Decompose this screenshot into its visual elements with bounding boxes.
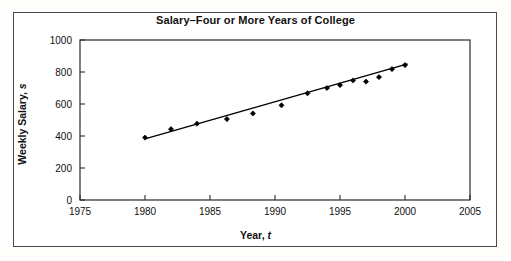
x-tick-label-2005: 2005 (459, 206, 482, 217)
y-tick-label-800: 800 (55, 67, 72, 78)
axes-group (80, 40, 470, 200)
data-point (363, 79, 368, 84)
x-tick-label-1995: 1995 (329, 206, 352, 217)
data-point (402, 63, 407, 68)
y-axis-ticks (80, 40, 85, 200)
data-point (194, 121, 199, 126)
y-tick-label-1000: 1000 (50, 35, 73, 46)
y-tick-label-400: 400 (55, 131, 72, 142)
figure-container: Salary–Four or More Years of College Wee… (0, 0, 511, 261)
regression-line (145, 64, 408, 139)
plot-canvas: 1975198019851990199520002005 02004006008… (0, 0, 511, 261)
y-tick-label-600: 600 (55, 99, 72, 110)
x-axis-tick-labels: 1975198019851990199520002005 (69, 206, 482, 217)
data-point (250, 111, 255, 116)
x-tick-label-1980: 1980 (134, 206, 157, 217)
x-tick-label-1990: 1990 (264, 206, 287, 217)
y-axis-tick-labels: 02004006008001000 (50, 35, 73, 206)
regression-line-segment (145, 64, 408, 139)
y-tick-label-0: 0 (66, 195, 72, 206)
x-axis-ticks (80, 195, 470, 200)
data-point (376, 75, 381, 80)
data-point (224, 116, 229, 121)
y-tick-label-200: 200 (55, 163, 72, 174)
x-tick-label-1985: 1985 (199, 206, 222, 217)
x-tick-label-2000: 2000 (394, 206, 417, 217)
data-point (279, 103, 284, 108)
plot-frame (80, 40, 470, 200)
data-point (142, 135, 147, 140)
x-tick-label-1975: 1975 (69, 206, 92, 217)
